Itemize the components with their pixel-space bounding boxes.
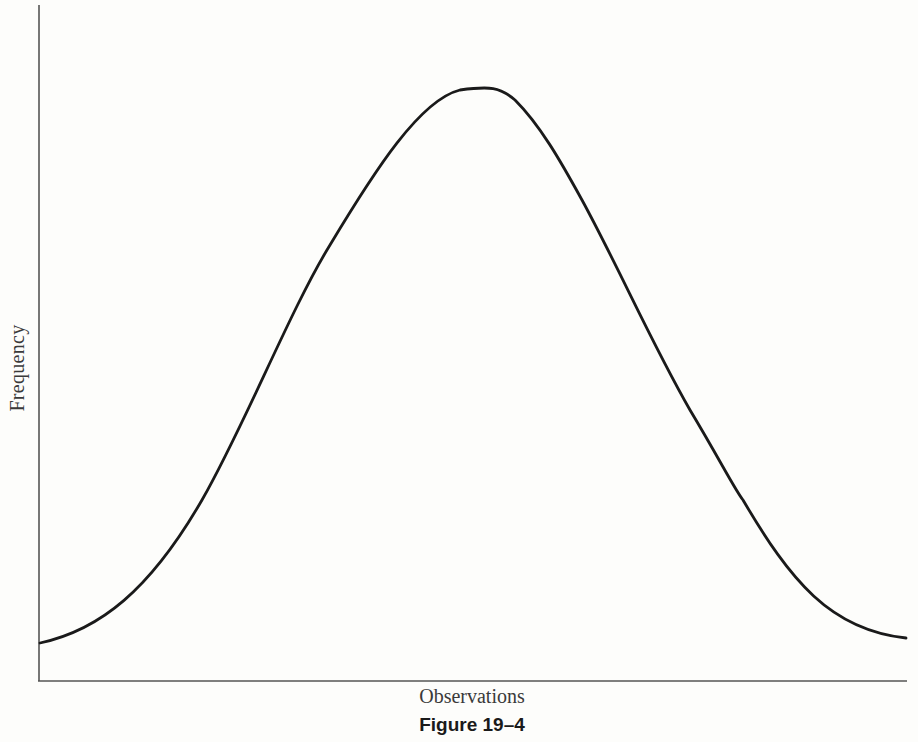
x-axis-label: Observations <box>419 685 525 708</box>
figure-caption: Figure 19–4 <box>419 714 525 736</box>
y-axis-label: Frequency <box>6 324 29 411</box>
bell-curve <box>40 88 906 643</box>
chart-canvas <box>0 0 918 742</box>
